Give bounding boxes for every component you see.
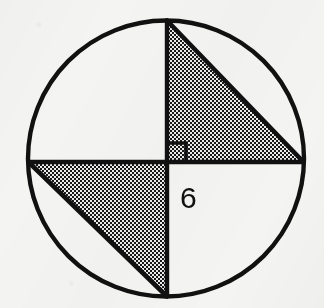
geometry-figure-container: 6: [0, 0, 324, 308]
geometry-diagram-canvas: 6: [0, 0, 324, 308]
side-length-label: 6: [180, 181, 197, 214]
